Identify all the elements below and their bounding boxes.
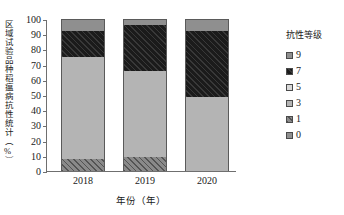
bar-2019-segment-level-1 [123, 157, 167, 171]
legend-item-9[interactable]: 9 [286, 47, 344, 63]
plot-area: 100 90 80 70 60 50 40 30 20 10 0 2018 [46, 20, 236, 172]
chart-figure: 区域试验品种稻瘟病抗性统计（%） 100 90 80 70 60 50 40 3… [0, 0, 344, 215]
bar-2020-segment-level-7 [185, 31, 229, 96]
y-tick-70 [43, 66, 47, 67]
legend-item-1[interactable]: 1 [286, 111, 344, 127]
legend-title: 抗性等级 [286, 30, 344, 41]
y-tick-label-10: 10 [31, 152, 41, 162]
legend-swatch-3-icon [286, 100, 293, 107]
y-axis-title: 区域试验品种稻瘟病抗性统计（%） [0, 6, 14, 178]
legend-label-7: 7 [296, 66, 301, 76]
legend-label-5: 5 [296, 82, 301, 92]
y-tick-label-30: 30 [31, 121, 41, 131]
y-tick-label-60: 60 [31, 76, 41, 86]
y-tick-0 [43, 172, 47, 173]
legend-item-3[interactable]: 3 [286, 95, 344, 111]
y-tick-label-40: 40 [31, 106, 41, 116]
y-tick-60 [43, 81, 47, 82]
legend-swatch-1-icon [286, 116, 293, 123]
legend-item-7[interactable]: 7 [286, 63, 344, 79]
bar-2018-segment-level-5 [61, 57, 105, 159]
legend-swatch-0-icon [286, 132, 293, 139]
legend-swatch-7-icon [286, 68, 293, 75]
y-tick-50 [43, 96, 47, 97]
y-tick-40 [43, 111, 47, 112]
y-tick-90 [43, 35, 47, 36]
legend-item-0[interactable]: 0 [286, 127, 344, 143]
y-tick-label-70: 70 [31, 61, 41, 71]
bar-2020-segment-level-9 [185, 19, 229, 31]
y-tick-label-100: 100 [26, 15, 41, 25]
y-tick-20 [43, 142, 47, 143]
y-tick-label-80: 80 [31, 45, 41, 55]
x-axis-title: 年份（年） [46, 196, 236, 207]
x-tick-label-2019: 2019 [115, 176, 175, 186]
bar-2019-segment-level-7 [123, 25, 167, 71]
bar-2020[interactable]: 2020 [185, 19, 229, 171]
legend-swatch-9-icon [286, 52, 293, 59]
x-tick-label-2020: 2020 [177, 176, 237, 186]
bar-2018[interactable]: 2018 [61, 19, 105, 171]
x-tick-label-2018: 2018 [53, 176, 113, 186]
y-tick-100 [43, 20, 47, 21]
y-tick-label-20: 20 [31, 137, 41, 147]
y-tick-30 [43, 126, 47, 127]
bar-2020-segment-level-5 [185, 97, 229, 171]
legend: 抗性等级 9 7 5 3 1 0 [286, 30, 344, 143]
legend-label-0: 0 [296, 130, 301, 140]
legend-label-3: 3 [296, 98, 301, 108]
bar-2019-segment-level-5 [123, 71, 167, 158]
y-tick-10 [43, 157, 47, 158]
legend-label-9: 9 [296, 50, 301, 60]
bar-2018-segment-level-7 [61, 31, 105, 57]
bar-2019[interactable]: 2019 [123, 19, 167, 171]
y-tick-80 [43, 50, 47, 51]
y-tick-label-0: 0 [36, 167, 41, 177]
y-tick-label-50: 50 [31, 91, 41, 101]
legend-swatch-5-icon [286, 84, 293, 91]
bar-2018-segment-level-1 [61, 159, 105, 171]
y-tick-label-90: 90 [31, 30, 41, 40]
legend-label-1: 1 [296, 114, 301, 124]
legend-item-5[interactable]: 5 [286, 79, 344, 95]
bar-2018-segment-level-9 [61, 19, 105, 31]
